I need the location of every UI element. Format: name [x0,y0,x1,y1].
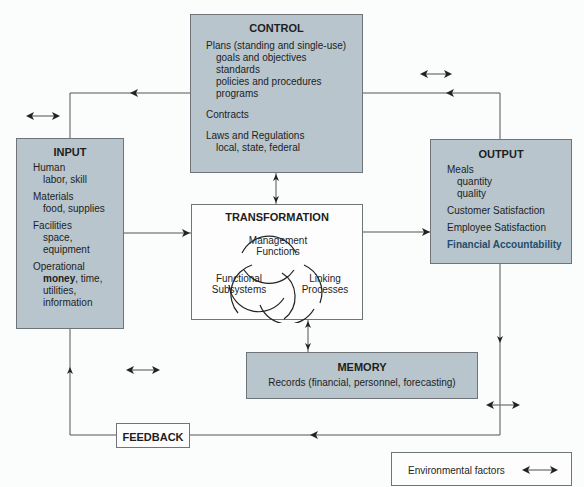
control-plans: Plans (standing and single-use) [206,40,362,52]
venn-linking: Linking Processes [295,273,355,295]
input-group-head: Human [33,162,123,174]
double-arrow-icon [522,465,558,475]
memory-title: MEMORY [247,361,477,373]
input-group-item: equipment [33,244,123,256]
venn-linking-line1: Linking [295,273,355,284]
input-group-item: utilities, [33,285,123,297]
venn-functional: Functional Subsystems [210,273,268,295]
input-group-item: food, supplies [33,203,123,215]
input-group-head: Materials [33,191,123,203]
control-plan-item: policies and procedures [206,76,362,88]
control-title: CONTROL [191,22,362,34]
output-title: OUTPUT [431,148,571,160]
input-money-rest: , time, [75,273,102,284]
output-meals: Meals [447,164,571,176]
control-laws: Laws and Regulations [206,130,362,142]
control-box: CONTROL Plans (standing and single-use) … [190,14,363,173]
venn-management-line1: Management [240,235,316,246]
output-financial: Financial Accountability [447,239,571,251]
input-group-head: Operational [33,261,123,273]
output-customer: Customer Satisfaction [447,205,571,217]
feedback-box: FEEDBACK [116,423,190,448]
control-contracts: Contracts [206,109,362,121]
feedback-title: FEEDBACK [122,431,183,443]
legend-label: Environmental factors [408,465,505,476]
input-title: INPUT [17,146,123,158]
input-group-item: money, time, [33,273,123,285]
legend-box: Environmental factors [391,452,572,486]
venn-management: Management Functions [240,235,316,257]
input-box: INPUT Human labor, skill Materials food,… [16,138,124,329]
input-group-head: Facilities [33,220,123,232]
venn-functional-line1: Functional [210,273,268,284]
output-meal-item: quantity [447,176,571,188]
venn-linking-line2: Processes [295,284,355,295]
control-laws-detail: local, state, federal [206,142,362,154]
input-group-item: labor, skill [33,174,123,186]
input-group-item: space, [33,232,123,244]
memory-box: MEMORY Records (financial, personnel, fo… [246,352,478,399]
output-meal-item: quality [447,188,571,200]
money-emphasis: money [43,273,75,284]
transformation-box: TRANSFORMATION Management Functions Func… [191,204,363,320]
output-employee: Employee Satisfaction [447,222,571,234]
control-plan-item: goals and objectives [206,52,362,64]
memory-records: Records (financial, personnel, forecasti… [247,377,477,389]
output-box: OUTPUT Meals quantity quality Customer S… [430,139,572,264]
venn-management-line2: Functions [240,246,316,257]
control-plan-item: standards [206,64,362,76]
venn-functional-line2: Subsystems [210,284,268,295]
transformation-title: TRANSFORMATION [192,211,362,223]
control-plan-item: programs [206,88,362,100]
input-group-item: information [33,297,123,309]
